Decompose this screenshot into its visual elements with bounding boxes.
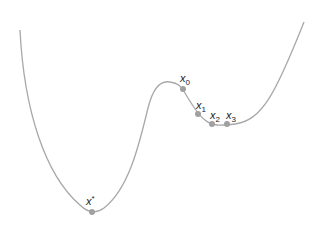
label-xstar: x* xyxy=(85,194,95,207)
point-xstar xyxy=(89,209,95,215)
point-x1 xyxy=(195,111,201,117)
point-x3 xyxy=(224,121,230,127)
point-x2 xyxy=(209,121,215,127)
function-diagram: x0 x1 x2 x3 x* xyxy=(0,0,323,227)
label-x0: x0 xyxy=(179,72,191,87)
function-curve xyxy=(20,22,304,212)
